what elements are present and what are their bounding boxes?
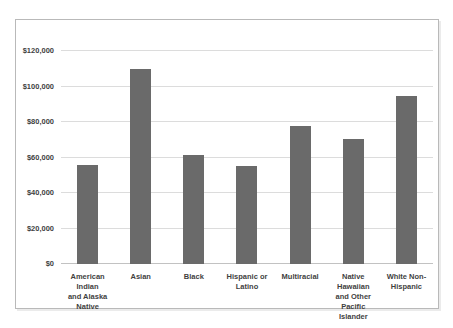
x-axis-category-label: Multiracial <box>274 270 327 282</box>
bar-slot <box>61 51 114 264</box>
bar-2 <box>183 155 204 264</box>
y-axis-tick-label: $100,000 <box>23 83 54 91</box>
bar-6 <box>396 96 417 264</box>
bar-4 <box>290 126 311 264</box>
y-axis-tick-label: $60,000 <box>27 154 54 162</box>
page: $0$20,000$40,000$60,000$80,000$100,000$1… <box>0 0 453 328</box>
bar-slot <box>220 51 273 264</box>
x-labels-row: American Indian and Alaska NativeAsianBl… <box>61 270 433 322</box>
bar-0 <box>77 165 98 264</box>
bar-slot <box>114 51 167 264</box>
y-axis-tick-label: $20,000 <box>27 225 54 233</box>
bar-slot <box>380 51 433 264</box>
bar-slot <box>167 51 220 264</box>
bar-3 <box>236 166 257 264</box>
bar-slot <box>327 51 380 264</box>
x-axis-category-label: American Indian and Alaska Native <box>61 270 114 312</box>
y-axis-tick-label: $40,000 <box>27 189 54 197</box>
x-axis-category-label: Native Hawaiian and Other Pacific Island… <box>327 270 380 322</box>
x-axis-category-label: Asian <box>114 270 167 282</box>
chart-frame: $0$20,000$40,000$60,000$80,000$100,000$1… <box>15 19 439 309</box>
x-axis-category-label: White Non- Hispanic <box>380 270 433 292</box>
y-axis-tick-label: $80,000 <box>27 118 54 126</box>
bars-row <box>61 51 433 264</box>
plot-area <box>61 51 433 264</box>
bar-slot <box>274 51 327 264</box>
bar-5 <box>343 139 364 264</box>
y-axis-tick-label: $120,000 <box>23 47 54 55</box>
x-axis-category-label: Black <box>167 270 220 282</box>
y-axis-tick-label: $0 <box>46 260 54 268</box>
y-axis: $0$20,000$40,000$60,000$80,000$100,000$1… <box>16 51 61 264</box>
x-axis-category-label: Hispanic or Latino <box>220 270 273 292</box>
bar-1 <box>130 69 151 264</box>
